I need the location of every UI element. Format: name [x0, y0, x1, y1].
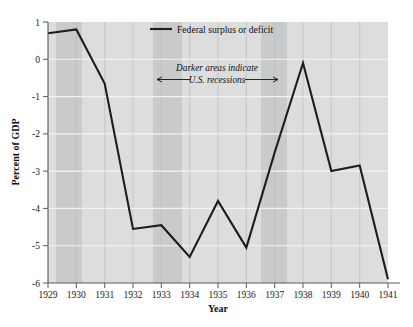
x-tick-label: 1930 [67, 290, 86, 300]
recession-band-1 [56, 22, 82, 283]
y-tick-label: -3 [32, 167, 40, 177]
x-tick-label: 1940 [350, 290, 369, 300]
annotation-line-1: Darker areas indicate [175, 63, 258, 73]
x-tick-label: 1941 [379, 290, 398, 300]
x-tick-label: 1936 [237, 290, 256, 300]
annotation-line-2: U.S. recessions [189, 75, 246, 85]
y-axis-title: Percent of GDP [10, 118, 21, 185]
y-tick-label: -4 [32, 204, 40, 214]
y-tick-label: -5 [32, 241, 40, 251]
legend-entry-label: Federal surplus or deficit [177, 24, 274, 35]
y-tick-label: 1 [35, 18, 40, 28]
x-tick-label: 1934 [180, 290, 199, 300]
chart-container: 1 0 -1 -2 -3 -4 -5 -6 1929 [0, 0, 413, 327]
x-tick-label: 1937 [265, 290, 284, 300]
y-tick-label: -1 [32, 92, 40, 102]
x-tick-label: 1933 [152, 290, 171, 300]
y-tick-label: -2 [32, 129, 40, 139]
x-axis-tick-labels: 1929 1930 1931 1932 1933 1934 1935 1936 … [39, 290, 398, 300]
x-axis-ticks [48, 283, 388, 288]
x-tick-label: 1929 [39, 290, 58, 300]
x-tick-label: 1939 [322, 290, 341, 300]
x-tick-label: 1932 [124, 290, 143, 300]
y-tick-label: 0 [35, 55, 40, 65]
x-tick-label: 1931 [95, 290, 114, 300]
x-tick-label: 1935 [209, 290, 228, 300]
y-axis-tick-labels: 1 0 -1 -2 -3 -4 -5 -6 [32, 18, 40, 289]
x-tick-label: 1938 [294, 290, 313, 300]
y-axis-ticks [43, 22, 48, 283]
y-tick-label: -6 [32, 279, 40, 289]
federal-surplus-deficit-line-chart: 1 0 -1 -2 -3 -4 -5 -6 1929 [0, 0, 413, 327]
x-axis-title: Year [208, 303, 229, 314]
